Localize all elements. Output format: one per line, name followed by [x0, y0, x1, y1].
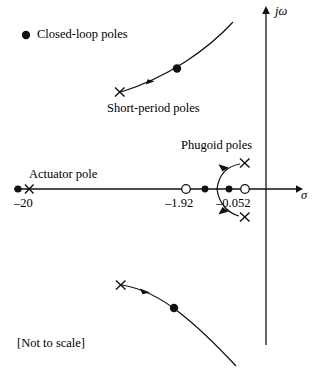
closed-loop-pole-marker [14, 185, 21, 192]
short-period-poles-label: Short-period poles [107, 102, 200, 115]
imaginary-axis [262, 6, 270, 345]
root-locus-figure: Closed-loop poles jω σ Short-period pole… [0, 0, 315, 379]
actuator-pole-label: Actuator pole [29, 168, 97, 181]
plot-canvas [0, 0, 315, 379]
closed-loop-pole-marker [173, 64, 181, 72]
open-loop-pole-x-marker [240, 213, 250, 222]
imaginary-axis-label: jω [275, 5, 287, 18]
locus-direction-arrow [218, 164, 228, 171]
legend-label: Closed-loop poles [37, 28, 128, 41]
short-period-upper-branch [115, 22, 233, 97]
open-loop-pole-x-marker [240, 159, 250, 168]
real-axis-label: σ [301, 189, 307, 202]
open-loop-pole-x-marker [115, 88, 125, 97]
closed-loop-pole-marker [226, 186, 233, 193]
open-loop-zero-marker [182, 185, 191, 194]
legend-marker-icon [22, 31, 30, 39]
tick-label-zero-far: –1.92 [165, 197, 193, 210]
closed-loop-pole-marker [202, 186, 209, 193]
closed-loop-pole-marker [170, 304, 178, 312]
short-period-lower-branch [116, 281, 236, 367]
phugoid-poles-label: Phugoid poles [181, 139, 252, 152]
tick-label-zero-near: –0.052 [216, 197, 250, 210]
real-axis [14, 185, 303, 193]
tick-label-actuator: –20 [14, 197, 33, 210]
not-to-scale-note: [Not to scale] [17, 337, 85, 350]
open-loop-zero-marker [241, 185, 250, 194]
